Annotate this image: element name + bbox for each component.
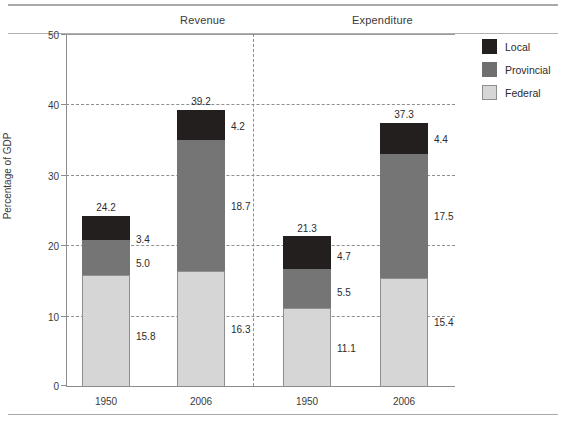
legend: Local Provincial Federal: [482, 38, 551, 107]
legend-swatch-federal-icon: [482, 85, 497, 100]
bar-segment-provincial[interactable]: [283, 269, 331, 308]
bar-value-provincial: 5.0: [136, 258, 150, 269]
legend-label-federal: Federal: [505, 87, 541, 99]
bar-value-local: 3.4: [136, 234, 150, 245]
gridline-50: 50: [66, 34, 455, 35]
legend-label-local: Local: [505, 41, 530, 53]
bar-revenue-1950[interactable]: [82, 216, 130, 386]
y-axis-label: Percentage of GDP: [2, 133, 13, 220]
bar-segment-local[interactable]: [82, 216, 130, 240]
legend-item-local[interactable]: Local: [482, 38, 551, 55]
y-tick-40: 40: [48, 100, 59, 111]
bar-value-federal: 11.1: [337, 343, 356, 354]
panel-title-revenue: Revenue: [180, 14, 225, 26]
bar-value-provincial: 18.7: [231, 201, 250, 212]
top-rule: [8, 4, 558, 6]
chart-figure: Revenue Expenditure Percentage of GDP 50…: [0, 0, 566, 429]
x-label-revenue-2006: 2006: [190, 396, 212, 407]
bar-value-local: 4.2: [231, 121, 245, 132]
bar-expenditure-1950[interactable]: [283, 236, 331, 386]
bar-value-local: 4.4: [434, 134, 448, 145]
bar-segment-federal[interactable]: [283, 308, 331, 386]
bar-value-federal: 16.3: [231, 324, 250, 335]
bar-total-label: 24.2: [96, 202, 115, 213]
bottom-rule: [8, 414, 558, 415]
bar-segment-provincial[interactable]: [380, 154, 428, 277]
y-tick-20: 20: [48, 241, 59, 252]
bar-revenue-2006[interactable]: [177, 110, 225, 386]
bar-value-federal: 15.4: [434, 317, 453, 328]
bar-segment-provincial[interactable]: [82, 240, 130, 275]
y-tick-0: 0: [53, 381, 59, 392]
bar-segment-federal[interactable]: [177, 271, 225, 386]
bar-segment-provincial[interactable]: [177, 140, 225, 272]
bar-segment-local[interactable]: [380, 123, 428, 154]
bar-value-federal: 15.8: [136, 331, 155, 342]
legend-swatch-provincial-icon: [482, 62, 497, 77]
y-axis-line: [66, 34, 67, 386]
x-axis-line: [66, 386, 455, 387]
y-tick-10: 10: [48, 311, 59, 322]
x-label-revenue-1950: 1950: [95, 396, 117, 407]
bar-segment-local[interactable]: [283, 236, 331, 269]
legend-item-provincial[interactable]: Provincial: [482, 61, 551, 78]
x-label-expenditure-2006: 2006: [393, 396, 415, 407]
gridline-40: 40: [66, 104, 455, 105]
bar-total-label: 21.3: [297, 223, 316, 234]
bar-total-label: 39.2: [191, 96, 210, 107]
panel-title-expenditure: Expenditure: [352, 14, 413, 26]
plot-area: 50 40 30 20 10 0 24.2 3.4: [66, 34, 455, 386]
bar-expenditure-2006[interactable]: [380, 123, 428, 386]
legend-label-provincial: Provincial: [505, 64, 551, 76]
legend-item-federal[interactable]: Federal: [482, 84, 551, 101]
bar-value-local: 4.7: [337, 251, 351, 262]
bar-value-provincial: 17.5: [434, 211, 453, 222]
x-label-expenditure-1950: 1950: [296, 396, 318, 407]
y-tick-30: 30: [48, 170, 59, 181]
bar-total-label: 37.3: [394, 109, 413, 120]
legend-swatch-local-icon: [482, 39, 497, 54]
y-tick-50: 50: [48, 30, 59, 41]
panel-divider: [253, 34, 254, 386]
bar-value-provincial: 5.5: [337, 287, 351, 298]
bar-segment-federal[interactable]: [82, 275, 130, 386]
bar-segment-federal[interactable]: [380, 278, 428, 386]
bar-segment-local[interactable]: [177, 110, 225, 140]
